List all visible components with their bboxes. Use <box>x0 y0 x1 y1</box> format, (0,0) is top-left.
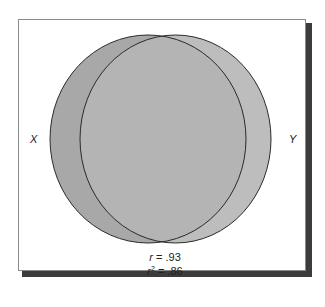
set-x-label: X <box>30 133 37 145</box>
r-squared-stat: r2 = .86 <box>120 265 210 277</box>
r2-value: = .86 <box>155 265 183 277</box>
correlation-stat: r = .93 <box>120 251 210 263</box>
set-y-label: Y <box>289 133 296 145</box>
r-value: = .93 <box>153 251 181 263</box>
